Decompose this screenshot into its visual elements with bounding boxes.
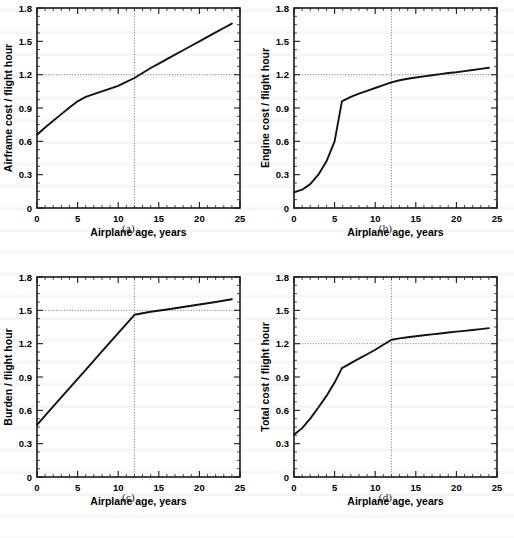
y-tick-label: 1.8 <box>19 3 32 14</box>
y-tick-label: 0 <box>284 203 289 214</box>
y-tick-label: 0 <box>27 203 32 214</box>
panel-caption-a: (a) <box>0 222 257 234</box>
y-axis-title: Total cost / flight hour <box>259 322 271 431</box>
panel-caption-c: (c) <box>0 491 257 503</box>
plot-frame <box>294 277 497 477</box>
panel-caption-b: (b) <box>257 222 514 234</box>
data-series-line <box>294 328 489 435</box>
panel-c: 051015202500.30.60.91.21.51.8Airplane ag… <box>0 269 257 538</box>
y-axis-title: Burden / flight hour <box>2 328 14 425</box>
y-tick-label: 1.8 <box>276 3 289 14</box>
y-tick-label: 1.2 <box>19 69 32 80</box>
figure-multipanel-aircraft-cost: 051015202500.30.60.91.21.51.8Airplane ag… <box>0 0 514 538</box>
y-tick-label: 0.6 <box>276 136 289 147</box>
y-tick-label: 1.5 <box>276 36 290 47</box>
panel-d: 051015202500.30.60.91.21.51.8Airplane ag… <box>257 269 514 538</box>
y-tick-label: 0.6 <box>276 405 289 416</box>
plot-frame <box>294 8 497 208</box>
y-tick-label: 1.2 <box>276 338 289 349</box>
y-tick-label: 1.5 <box>19 305 33 316</box>
y-tick-label: 1.8 <box>19 272 32 283</box>
y-tick-label: 1.5 <box>276 305 290 316</box>
y-tick-label: 0.3 <box>19 169 32 180</box>
y-tick-label: 0.6 <box>19 136 32 147</box>
y-tick-label: 0.9 <box>19 372 32 383</box>
y-tick-label: 0.9 <box>276 103 289 114</box>
y-tick-label: 0 <box>284 472 289 483</box>
plot-frame <box>37 277 240 477</box>
y-tick-label: 0.9 <box>19 103 32 114</box>
y-axis-title: Airframe cost / flight hour <box>2 44 14 172</box>
y-axis-title: Engine cost / flight hour <box>259 48 271 168</box>
panel-a: 051015202500.30.60.91.21.51.8Airplane ag… <box>0 0 257 269</box>
panel-caption-d: (d) <box>257 491 514 503</box>
panel-b: 051015202500.30.60.91.21.51.8Airplane ag… <box>257 0 514 269</box>
y-tick-label: 1.2 <box>276 69 289 80</box>
y-tick-label: 0 <box>27 472 32 483</box>
y-tick-label: 1.2 <box>19 338 32 349</box>
y-tick-label: 1.8 <box>276 272 289 283</box>
y-tick-label: 0.3 <box>276 438 289 449</box>
y-tick-label: 0.3 <box>276 169 289 180</box>
y-tick-label: 0.3 <box>19 438 32 449</box>
y-tick-label: 1.5 <box>19 36 33 47</box>
y-tick-label: 0.6 <box>19 405 32 416</box>
y-tick-label: 0.9 <box>276 372 289 383</box>
